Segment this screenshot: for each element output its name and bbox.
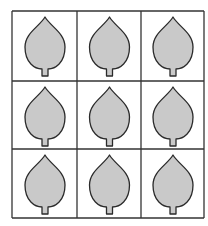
- leaf-icon: [90, 17, 130, 76]
- leaf-icon: [153, 17, 193, 76]
- leaf-icon: [25, 17, 65, 76]
- leaves: [25, 17, 193, 214]
- leaf-icon: [153, 155, 193, 214]
- leaf-grid: [0, 0, 208, 226]
- leaf-icon: [90, 87, 130, 146]
- leaf-icon: [25, 155, 65, 214]
- leaf-icon: [153, 87, 193, 146]
- leaf-icon: [25, 87, 65, 146]
- leaf-icon: [90, 155, 130, 214]
